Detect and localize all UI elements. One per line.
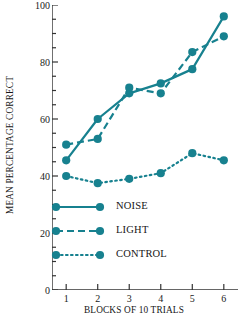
y-axis-tick-label: 40 <box>24 171 50 182</box>
data-point-control-5 <box>188 149 196 157</box>
legend-swatch-noise <box>50 196 112 218</box>
legend-marker-end <box>96 203 104 211</box>
y-axis-tick-label: 20 <box>24 228 50 239</box>
legend-item-noise[interactable]: NOISE <box>50 196 190 220</box>
legend-item-light[interactable]: LIGHT <box>50 220 190 244</box>
y-axis-tick-label: 80 <box>24 57 50 68</box>
legend-marker-end <box>96 227 104 235</box>
chart-container: MEAN PERCENTAGE CORRECT 020406080100 123… <box>0 0 248 322</box>
data-point-light-1 <box>62 141 70 149</box>
legend-swatch-control <box>50 244 112 266</box>
legend-marker-end <box>96 251 104 259</box>
data-point-light-2 <box>94 135 102 143</box>
x-axis-tick-label: 2 <box>88 293 108 304</box>
x-axis-title-text: BLOCKS OF 10 TRIALS <box>84 305 184 315</box>
data-point-light-5 <box>188 48 196 56</box>
legend-marker-start <box>52 227 60 235</box>
legend-label-noise: NOISE <box>116 200 148 211</box>
data-point-light-4 <box>157 89 165 97</box>
data-point-light-6 <box>220 32 228 40</box>
legend-marker-start <box>52 203 60 211</box>
y-axis-tick-label: 0 <box>24 285 50 296</box>
x-axis-tick-label: 5 <box>182 293 202 304</box>
series-markers <box>62 12 228 187</box>
y-axis-tick-label: 100 <box>24 0 50 11</box>
data-point-control-4 <box>157 169 165 177</box>
data-point-noise-2 <box>94 115 102 123</box>
legend-label-control: CONTROL <box>116 248 167 259</box>
legend-marker-start <box>52 251 60 259</box>
data-point-control-3 <box>125 175 133 183</box>
legend-label-light: LIGHT <box>116 224 149 235</box>
y-axis-title-text: MEAN PERCENTAGE CORRECT <box>5 76 15 214</box>
data-point-control-6 <box>220 156 228 164</box>
y-axis-tick-labels: 020406080100 <box>16 0 50 300</box>
data-point-noise-4 <box>157 79 165 87</box>
x-axis-title: BLOCKS OF 10 TRIALS <box>20 305 248 315</box>
data-point-light-3 <box>125 84 133 92</box>
x-axis-tick-label: 6 <box>214 293 234 304</box>
series-lines <box>66 16 224 183</box>
x-axis-tick-label: 3 <box>119 293 139 304</box>
chart-legend: NOISELIGHTCONTROL <box>50 196 190 268</box>
data-point-control-2 <box>94 179 102 187</box>
data-point-noise-5 <box>188 65 196 73</box>
x-axis-ticks <box>66 284 224 290</box>
x-axis-tick-label: 1 <box>56 293 76 304</box>
y-axis-tick-label: 60 <box>24 114 50 125</box>
legend-item-control[interactable]: CONTROL <box>50 244 190 268</box>
data-point-noise-1 <box>62 156 70 164</box>
series-line-noise <box>66 16 224 160</box>
x-axis-tick-label: 4 <box>151 293 171 304</box>
series-line-control <box>66 153 224 183</box>
data-point-control-1 <box>62 172 70 180</box>
legend-swatch-light <box>50 220 112 242</box>
data-point-noise-6 <box>220 12 228 20</box>
